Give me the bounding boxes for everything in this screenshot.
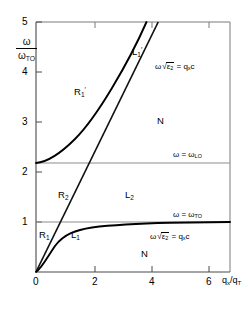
light-line-equation-lower: ω√ε2 = qxc [150, 232, 190, 242]
curve-label-L1-prime: L1′ [132, 47, 142, 58]
x-axis-title-sub-T: T [238, 279, 242, 286]
eq-eps-sub-lower: 2 [165, 235, 168, 241]
region-label-R1-sub: 1 [46, 234, 50, 241]
y-tick-label-3: 3 [22, 117, 28, 127]
region-label-L1: L1 [71, 230, 80, 241]
omega-LO-label: ω = ωLO [173, 151, 202, 160]
eq-c-lower: c [186, 232, 190, 241]
region-label-L2-sub: 2 [130, 194, 134, 201]
radicand-lower: ε2 [161, 232, 170, 242]
region-label-R1-base: R [39, 229, 46, 240]
eq-c-upper: c [191, 62, 195, 71]
region-label-L2: L2 [125, 190, 134, 201]
y-tick-label-4: 4 [22, 67, 28, 77]
omega-TO-label-sub: TO [195, 213, 202, 219]
curve-label-L1-prime-mark: ′ [141, 46, 142, 53]
light-line-equation-upper: ω√ε2 = qxc [155, 62, 195, 72]
region-label-R2-base: R [58, 189, 65, 200]
region-label-N-lower: N [141, 249, 148, 259]
radicand-upper: ε2 [166, 62, 175, 72]
y-axis-title-denominator: ωTO [16, 48, 37, 62]
polariton-dispersion-figure: ω ωTO 5 4 3 2 1 0 2 4 6 qx/qT R1′ R2 R1 … [0, 0, 251, 317]
region-label-R1-prime-base: R [74, 86, 81, 97]
sqrt-symbol-upper: √ε2 [161, 62, 174, 72]
omega-TO-label-base: ω = ω [173, 210, 195, 219]
y-axis-title-numerator: ω [16, 36, 37, 48]
y-axis-title-denominator-base: ω [18, 50, 26, 61]
y-axis-title: ω ωTO [16, 36, 37, 62]
region-label-N-upper: N [157, 116, 164, 126]
eq-eps-sub-upper: 2 [170, 65, 173, 71]
x-tick-label-2: 2 [92, 277, 98, 287]
region-label-R1: R1 [39, 230, 49, 241]
eq-equals-upper: = q [176, 62, 187, 71]
x-tick-label-0: 0 [33, 277, 39, 287]
sqrt-symbol-lower: √ε2 [156, 232, 169, 242]
region-label-R1-prime-mark: ′ [84, 86, 85, 93]
region-label-R1-prime: R1′ [74, 87, 86, 98]
region-label-L1-sub: 1 [76, 234, 80, 241]
omega-TO-label: ω = ωTO [173, 211, 202, 220]
region-label-R2: R2 [58, 190, 68, 201]
y-tick-label-1: 1 [22, 217, 28, 227]
omega-LO-label-base: ω = ω [173, 150, 195, 159]
y-axis-title-denominator-sub: TO [26, 55, 35, 62]
y-tick-label-2: 2 [22, 167, 28, 177]
x-tick-label-6: 6 [206, 277, 212, 287]
y-tick-label-5: 5 [22, 17, 28, 27]
x-axis-title: qx/qT [222, 276, 241, 286]
omega-LO-label-sub: LO [195, 153, 202, 159]
eq-equals-lower: = q [171, 232, 182, 241]
region-label-R2-sub: 2 [65, 194, 69, 201]
plot-canvas [0, 0, 251, 317]
x-tick-label-4: 4 [149, 277, 155, 287]
